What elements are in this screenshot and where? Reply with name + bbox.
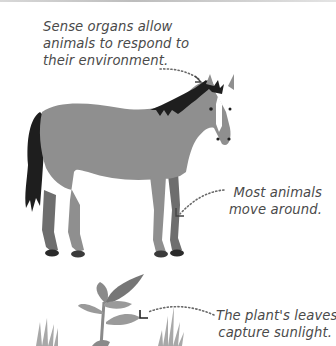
horse-icon	[25, 74, 234, 258]
leader-line-movement	[176, 190, 224, 216]
plant-icon	[78, 274, 144, 346]
grass-right-icon	[158, 306, 184, 346]
leader-line-sense-organs	[160, 69, 201, 82]
leader-line-plant-leaves	[140, 307, 214, 318]
grass-left-icon	[36, 318, 58, 346]
illustration-canvas	[0, 0, 336, 346]
